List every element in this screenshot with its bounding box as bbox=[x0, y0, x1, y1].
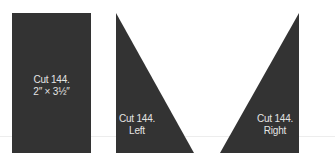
rectangle-label-line1: Cut 144. bbox=[12, 74, 91, 86]
rectangle-label: Cut 144. 2″ × 3½″ bbox=[12, 74, 91, 98]
right-triangle-label-side: Right bbox=[252, 125, 298, 137]
right-triangle-label: Cut 144. Right bbox=[252, 113, 298, 137]
left-triangle-label-line1: Cut 144. bbox=[116, 113, 158, 125]
left-triangle-label: Cut 144. Left bbox=[116, 113, 158, 137]
right-triangle-label-line1: Cut 144. bbox=[252, 113, 298, 125]
left-triangle-label-side: Left bbox=[116, 125, 158, 137]
rectangle-label-dimensions: 2″ × 3½″ bbox=[12, 86, 91, 98]
